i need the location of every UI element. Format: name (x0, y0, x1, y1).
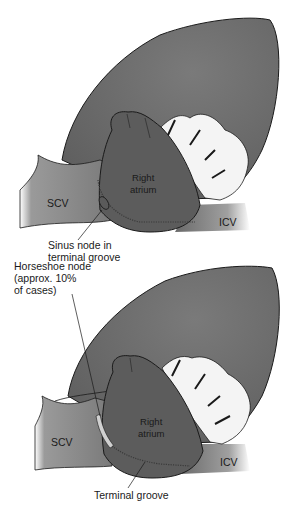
heart-illustration-top (0, 0, 302, 256)
label-icv-bottom: ICV (220, 456, 238, 468)
label-right-atrium-bottom: Right atrium (138, 416, 164, 440)
top-panel: Right atrium SCV ICV Sinus node in termi… (0, 0, 302, 256)
scv-vessel (20, 155, 112, 228)
scv-vessel (35, 396, 112, 470)
label-horseshoe-node: Horseshoe node (approx. 10% of cases) (14, 260, 91, 296)
label-right-atrium-top: Right atrium (130, 172, 156, 196)
label-icv-top: ICV (219, 216, 237, 228)
bottom-panel: Horseshoe node (approx. 10% of cases) Ri… (0, 256, 302, 513)
label-terminal-groove: Terminal groove (94, 489, 169, 501)
label-scv-top: SCV (47, 197, 69, 209)
label-scv-bottom: SCV (51, 436, 73, 448)
